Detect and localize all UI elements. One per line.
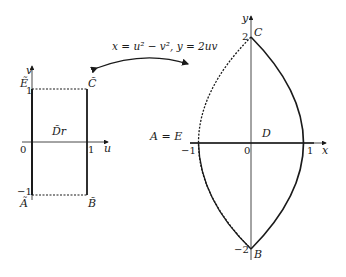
vertex-b-tilde: B̃ xyxy=(87,197,96,210)
tick-y-neg-two: −2 xyxy=(234,244,249,255)
tick-y-two: 2 xyxy=(242,31,248,42)
tick-v-one: 1 xyxy=(26,85,32,96)
mapping-arrow xyxy=(97,58,188,68)
region-d-tilde-r: D̃r xyxy=(51,125,67,138)
vertex-a-tilde: Ã xyxy=(19,196,28,210)
u-axis-label: u xyxy=(104,142,111,155)
tick-origin-right: 0 xyxy=(244,145,250,156)
vertex-c: C xyxy=(254,26,263,39)
mapping-arrow-group: x = u² − v², y = 2uv xyxy=(97,40,218,68)
tick-origin-left: 0 xyxy=(20,144,26,155)
mapping-formula: x = u² − v², y = 2uv xyxy=(112,40,218,52)
vertex-c-tilde: C̃ xyxy=(88,77,97,90)
diagram-canvas: v u Ẽ 1 C̃ D̃r 0 1 −1 Ã B̃ x = u² − v², … xyxy=(0,0,346,277)
left-plot: v u Ẽ 1 C̃ D̃r 0 1 −1 Ã B̃ xyxy=(17,64,111,210)
v-axis-label: v xyxy=(26,64,33,77)
left-lower-curve xyxy=(199,143,252,249)
tick-v-neg-one: −1 xyxy=(17,186,32,197)
tick-u-one: 1 xyxy=(88,144,94,155)
x-axis-label: x xyxy=(322,144,329,157)
y-axis-label: y xyxy=(241,12,249,25)
tick-x-one: 1 xyxy=(307,145,313,156)
vertex-a-equals-e: A = E xyxy=(149,130,182,143)
tick-x-neg-one: −1 xyxy=(181,145,196,156)
vertex-b: B xyxy=(253,248,262,261)
region-d: D xyxy=(261,127,271,140)
